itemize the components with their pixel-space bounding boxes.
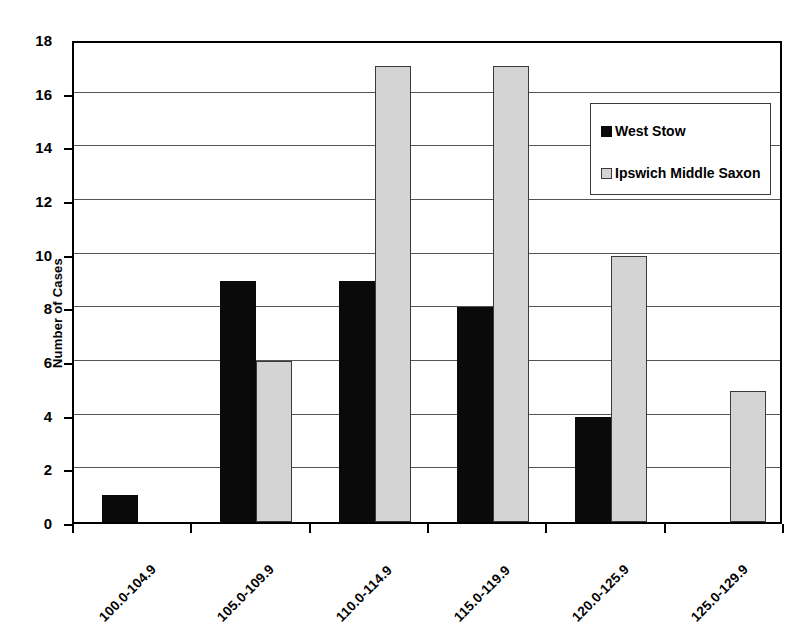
y-axis-tick-label: 6 [12,355,52,370]
bar-west-stow [575,417,611,522]
gridline [74,306,780,307]
legend-label: Ipswich Middle Saxon [615,166,760,180]
legend-label: West Stow [615,124,686,138]
bar-ipswich-middle-saxon [256,361,292,522]
y-axis-tick-label: 2 [12,462,52,477]
y-axis-tick-mark [64,202,72,204]
bar-ipswich-middle-saxon [493,66,529,522]
chart-legend: West StowIpswich Middle Saxon [590,103,771,195]
x-axis-tick-label: 110.0-114.9 [333,563,395,625]
bar-west-stow [220,281,256,523]
legend-entry: Ipswich Middle Saxon [601,166,760,180]
y-axis-tick-mark [64,256,72,258]
y-axis-tick-label: 16 [12,87,52,102]
x-axis-tick-mark [782,524,784,533]
gridline [74,253,780,254]
y-axis-tick-label: 10 [12,248,52,263]
bar-ipswich-middle-saxon [730,391,766,522]
y-axis-tick-mark [64,470,72,472]
gridline [74,467,780,468]
x-axis-tick-mark [309,524,311,533]
x-axis-tick-mark [427,524,429,533]
gridline [74,92,780,93]
y-axis-tick-label: 12 [12,194,52,209]
y-axis-tick-mark [64,148,72,150]
bar-west-stow [339,281,375,523]
x-axis-tick-mark [72,524,74,533]
bar-west-stow [102,495,138,522]
y-axis-tick-label: 18 [12,33,52,48]
x-axis-tick-mark [664,524,666,533]
y-axis-tick-mark [64,95,72,97]
bar-west-stow [457,307,493,522]
x-axis-tick-label: 125.0-129.9 [688,561,751,624]
x-axis-tick-label: 120.0-125.9 [569,561,632,624]
gridline [74,414,780,415]
y-axis-tick-label: 8 [12,301,52,316]
bar-ipswich-middle-saxon [375,66,411,522]
gridline [74,360,780,361]
x-axis-tick-label: 105.0-109.9 [214,561,277,624]
gridline [74,199,780,200]
y-axis-tick-label: 4 [12,409,52,424]
y-axis-tick-mark [64,524,72,526]
y-axis-tick-mark [64,363,72,365]
y-axis-tick-mark [64,309,72,311]
black-square-icon [601,126,612,137]
y-axis-tick-label: 0 [12,516,52,531]
x-axis-tick-mark [190,524,192,533]
bar-ipswich-middle-saxon [611,256,647,522]
x-axis-tick-mark [545,524,547,533]
bar-chart-figure: Number of Cases 024681012141618 100.0-10… [0,0,801,626]
y-axis-tick-label: 14 [12,140,52,155]
legend-entry: West Stow [601,124,686,138]
gray-square-icon [601,168,612,179]
x-axis-tick-label: 100.0-104.9 [96,561,159,624]
x-axis-tick-label: 115.0-119.9 [451,563,513,625]
y-axis-tick-mark [64,417,72,419]
